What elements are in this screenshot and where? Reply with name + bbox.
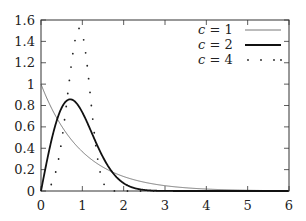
x-tick-label: 0 [37,198,45,213]
x-axis-ticks: 0123456 [37,20,293,213]
x-tick-label: 1 [78,198,86,213]
legend-swatch-c4 [247,59,282,61]
y-tick-label: 0.8 [14,98,35,113]
y-tick-label: 1 [27,77,35,92]
y-tick-label: 1.2 [14,55,35,70]
x-tick-label: 4 [202,198,210,213]
legend: c = 1 c = 2 c = 4 [198,22,282,67]
y-axis-ticks: 00.20.40.60.811.21.41.6 [14,13,289,199]
plot-curves [41,27,289,191]
y-tick-label: 0.4 [14,141,35,156]
y-tick-label: 1.4 [14,34,35,49]
y-tick-label: 1.6 [14,13,35,28]
y-tick-label: 0.6 [14,119,35,134]
series-c1-line [41,84,289,191]
legend-label-c3: c = 4 [198,52,233,67]
y-tick-label: 0 [27,184,35,199]
x-tick-label: 3 [161,198,169,213]
series-c2-line [41,99,289,191]
x-tick-label: 2 [120,198,128,213]
x-tick-label: 5 [244,198,252,213]
legend-label-c2: c = 2 [198,37,233,52]
weibull-density-chart: 0123456 00.20.40.60.811.21.41.6 c = 1 c … [0,0,306,221]
y-tick-label: 0.2 [14,162,35,177]
legend-label-c1: c = 1 [198,22,233,37]
x-tick-label: 6 [285,198,293,213]
